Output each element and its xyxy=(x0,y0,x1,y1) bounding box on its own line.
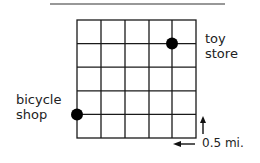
left-arrow-icon xyxy=(173,141,195,147)
toy-label-line2: store xyxy=(205,46,238,61)
toy-label-line1: toy xyxy=(205,31,238,46)
up-arrow-icon xyxy=(200,116,206,134)
bike-label-line1: bicycle xyxy=(16,92,61,107)
toy-store-label: toy store xyxy=(205,31,238,61)
bicycle-shop-label: bicycle shop xyxy=(16,92,61,122)
toy-store-dot xyxy=(166,38,178,50)
grid xyxy=(77,20,196,138)
bike-label-line2: shop xyxy=(16,107,61,122)
scale-label: 0.5 mi. xyxy=(202,136,244,151)
bicycle-shop-dot xyxy=(71,108,83,120)
